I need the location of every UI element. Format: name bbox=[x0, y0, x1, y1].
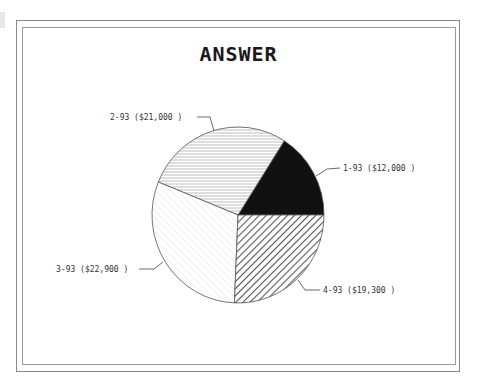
slice-label-1-93: 1-93 ($12,000 ) bbox=[343, 164, 415, 173]
slice-label-2-93: 2-93 ($21,000 ) bbox=[110, 113, 182, 122]
leader-line-1-93 bbox=[316, 168, 340, 176]
leader-line-4-93 bbox=[298, 280, 320, 290]
pie-chart: 2-93 ($21,000 ) 1-93 ($12,000 ) 3-93 ($2… bbox=[0, 0, 477, 385]
slice-label-4-93: 4-93 ($19,300 ) bbox=[323, 286, 395, 295]
leader-line-2-93 bbox=[197, 117, 214, 131]
leader-line-3-93 bbox=[139, 262, 163, 269]
pie-slices bbox=[152, 127, 324, 303]
slice-label-3-93: 3-93 ($22,900 ) bbox=[56, 265, 128, 274]
